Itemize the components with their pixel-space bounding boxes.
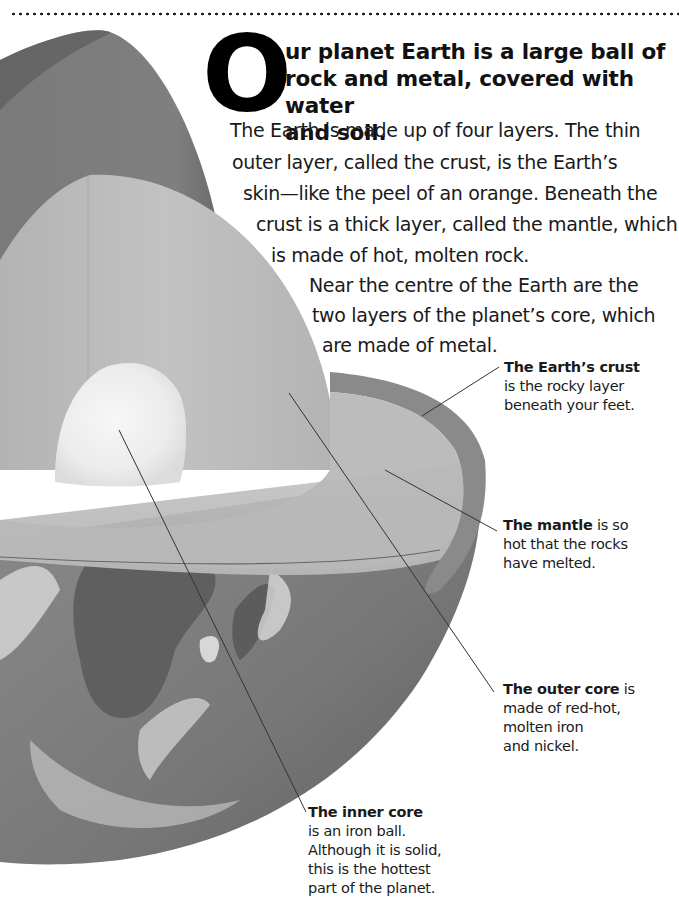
callout-crust: The Earth’s crust is the rocky layer ben… [504, 358, 640, 415]
body-text-line: two layers of the planet’s core, which [312, 303, 655, 327]
callout-outer-core: The outer core is made of red-hot, molte… [503, 680, 635, 756]
callout-text: is an iron ball. [308, 822, 441, 841]
callout-title: The Earth’s crust [504, 358, 640, 377]
callout-text: beneath your feet. [504, 396, 640, 415]
callout-text: is so [593, 517, 629, 533]
callout-title: The inner core [308, 803, 441, 822]
body-text-line: Near the centre of the Earth are the [309, 273, 638, 297]
callout-mantle: The mantle is so hot that the rocks have… [503, 516, 628, 573]
body-text-line: skin—like the peel of an orange. Beneath… [243, 181, 657, 205]
drop-cap: O [202, 22, 292, 128]
body-text-line: outer layer, called the crust, is the Ea… [232, 150, 617, 174]
leader-line-crust [422, 367, 499, 416]
body-text-line: crust is a thick layer, called the mantl… [256, 212, 678, 236]
body-text-line: is made of hot, molten rock. [271, 243, 529, 267]
heading-line: rock and metal, covered with water [285, 65, 679, 119]
callout-text: molten iron [503, 718, 635, 737]
callout-text: made of red-hot, [503, 699, 635, 718]
callout-text: Although it is solid, [308, 841, 441, 860]
callout-text: have melted. [503, 554, 628, 573]
callout-text: and nickel. [503, 737, 635, 756]
callout-text: is the rocky layer [504, 377, 640, 396]
callout-title: The mantle [503, 517, 593, 533]
callout-title: The outer core [503, 681, 619, 697]
callout-text: this is the hottest [308, 860, 441, 879]
body-text-line: are made of metal. [322, 333, 497, 357]
callout-inner-core: The inner core is an iron ball. Although… [308, 803, 441, 898]
callout-text: part of the planet. [308, 879, 441, 898]
body-text-line: The Earth is made up of four layers. The… [230, 118, 640, 142]
callout-text: hot that the rocks [503, 535, 628, 554]
heading-line: ur planet Earth is a large ball of [285, 38, 679, 65]
callout-text: is [619, 681, 634, 697]
